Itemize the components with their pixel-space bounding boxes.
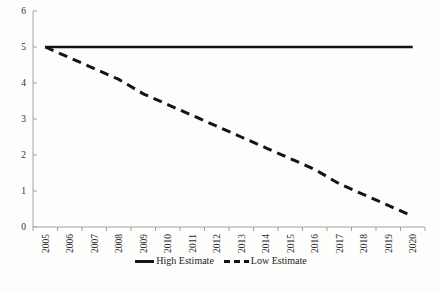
legend-label-low-estimate: Low Estimate: [251, 254, 307, 268]
x-axis-tick-label: 2016: [310, 234, 320, 253]
line-chart-canvas: 0123456200520062007200820092010201120122…: [0, 0, 442, 258]
x-axis-tick-label: 2017: [335, 234, 345, 253]
legend-item-low-estimate: Low Estimate: [224, 254, 307, 268]
chart-legend: High Estimate Low Estimate: [0, 254, 442, 268]
y-axis-tick-label: 5: [21, 42, 26, 52]
x-axis-tick-label: 2018: [359, 234, 369, 253]
x-axis-tick-label: 2014: [261, 234, 271, 253]
low-estimate-line: [45, 47, 413, 216]
y-axis-tick-label: 2: [21, 150, 26, 160]
x-axis-tick-label: 2009: [139, 234, 149, 253]
x-axis-tick-label: 2008: [114, 234, 124, 253]
x-axis-tick-label: 2007: [90, 234, 100, 253]
x-axis-tick-label: 2020: [408, 234, 418, 253]
x-axis-tick-label: 2019: [384, 234, 394, 253]
y-axis-tick-label: 0: [21, 222, 26, 232]
x-axis-tick-label: 2006: [65, 234, 75, 253]
low-estimate-line-sample: [224, 260, 249, 263]
high-estimate-line-sample: [135, 260, 154, 263]
y-axis-tick-label: 6: [21, 6, 26, 16]
x-axis-tick-label: 2011: [188, 234, 198, 253]
legend-label-high-estimate: High Estimate: [156, 254, 214, 268]
y-axis-tick-label: 3: [21, 114, 26, 124]
x-axis-tick-label: 2010: [163, 234, 173, 253]
legend-item-high-estimate: High Estimate: [135, 254, 214, 268]
x-axis-tick-label: 2005: [41, 234, 51, 253]
x-axis-tick-label: 2013: [237, 234, 247, 253]
y-axis-tick-label: 1: [21, 186, 26, 196]
x-axis-tick-label: 2015: [286, 234, 296, 253]
x-axis-tick-label: 2012: [212, 234, 222, 253]
y-axis-tick-label: 4: [21, 78, 26, 88]
chart-figure: 0123456200520062007200820092010201120122…: [0, 0, 442, 291]
